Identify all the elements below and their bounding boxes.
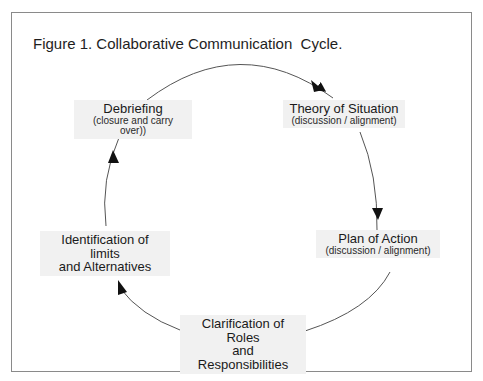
arrow-theory-to-plan bbox=[360, 132, 377, 230]
arrowhead-icon bbox=[311, 80, 323, 92]
node-theory-of-situation: Theory of Situation (discussion / alignm… bbox=[283, 100, 405, 128]
arrow-roles-to-limits bbox=[120, 288, 180, 330]
node-clarification-of-roles: Clarification of Roles and Responsibilit… bbox=[180, 315, 306, 374]
arrowhead-icon bbox=[118, 280, 127, 295]
node-debriefing: Debriefing (closure and carry over)) bbox=[74, 100, 192, 139]
node-identification-of-limits: Identification of limits and Alternative… bbox=[40, 231, 170, 276]
arrow-debriefing-to-theory bbox=[147, 64, 333, 100]
arrow-limits-to-debriefing bbox=[105, 135, 120, 226]
node-plan-of-action: Plan of Action (discussion / alignment) bbox=[316, 230, 440, 258]
arrow-plan-to-roles bbox=[305, 272, 390, 331]
arrowhead-icon bbox=[372, 208, 383, 220]
arrowhead-icon bbox=[108, 150, 119, 163]
